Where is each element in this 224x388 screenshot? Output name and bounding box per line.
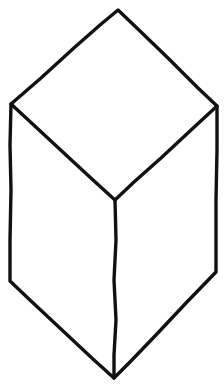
figure-canvas bbox=[0, 0, 224, 388]
necker-cube-drawing bbox=[0, 0, 224, 388]
cube-center-vertical-edge bbox=[114, 200, 116, 378]
